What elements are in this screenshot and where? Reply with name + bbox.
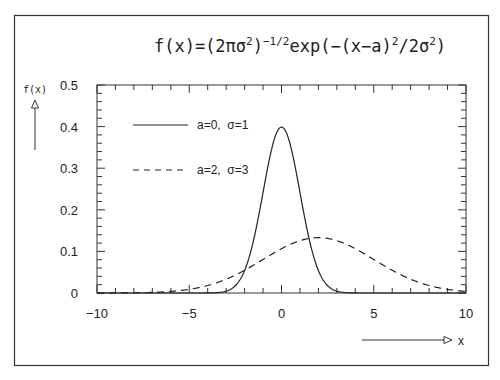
legend-label-0: a=0, σ=1 xyxy=(197,118,249,132)
tick-label: 0 xyxy=(278,306,285,321)
tick-label: 5 xyxy=(370,306,377,321)
chart-figure: f(x)=(2πσ2)−1/2exp(−(x−a)2/2σ2) −10−5051… xyxy=(0,0,500,380)
axis-ticks xyxy=(97,85,466,293)
chart-title: f(x)=(2πσ2)−1/2exp(−(x−a)2/2σ2) xyxy=(154,35,446,56)
y-axis-arrow-icon xyxy=(32,100,39,108)
tick-label: 0.2 xyxy=(60,203,78,218)
tick-label: −5 xyxy=(182,306,197,321)
tick-label: 0.4 xyxy=(60,120,78,135)
x-axis-label: x xyxy=(458,334,464,348)
tick-labels: −10−5051000.10.20.30.40.5 xyxy=(60,78,473,321)
legend: a=0, σ=1 a=2, σ=3 xyxy=(133,118,249,177)
tick-label: −10 xyxy=(86,306,108,321)
x-axis-arrow-icon xyxy=(444,337,452,344)
tick-label: 0 xyxy=(71,286,78,301)
legend-label-1: a=2, σ=3 xyxy=(197,163,249,177)
tick-label: 0.3 xyxy=(60,161,78,176)
y-axis-label: f(x) xyxy=(23,84,47,95)
series-dashed-curve xyxy=(97,238,466,293)
series-solid-curve xyxy=(97,127,466,293)
plot-area xyxy=(97,85,466,293)
tick-label: 0.5 xyxy=(60,78,78,93)
tick-label: 10 xyxy=(459,306,473,321)
tick-label: 0.1 xyxy=(60,244,78,259)
